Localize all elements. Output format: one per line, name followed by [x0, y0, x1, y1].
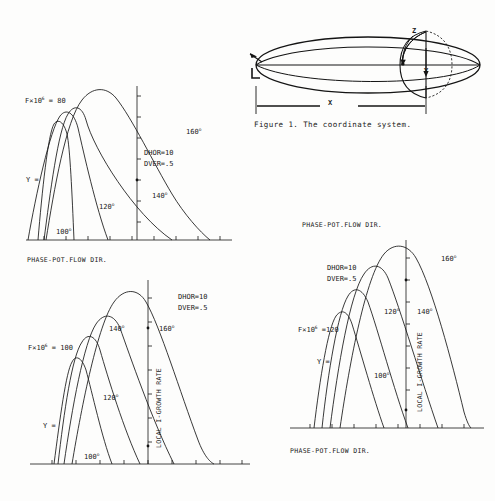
figure-page: Z Y X Figure 1. The coordinate system.: [0, 0, 495, 501]
chart-f120-curve-label-120: 120o: [384, 308, 399, 316]
chart-f80-curve-label-100: 100o: [56, 228, 71, 236]
curve-value: 100: [56, 228, 69, 236]
chart-f100-curve-label-140: 140o: [109, 325, 124, 333]
reynolds-prefix: F×10: [28, 344, 45, 352]
chart-f100-plot: [28, 268, 254, 473]
curve-value: 120: [103, 394, 116, 402]
curve-value: 120: [99, 203, 112, 211]
diagram-z-label: Z: [412, 28, 416, 35]
chart-f120-curve-label-140: 140o: [417, 308, 432, 316]
degree-icon: o: [122, 324, 125, 329]
degree-icon: o: [199, 127, 202, 132]
degree-icon: o: [387, 371, 390, 376]
degree-icon: o: [112, 202, 115, 207]
chart-f100-growth-axis-label: LOCAL I-GROWTH RATE: [156, 368, 163, 448]
chart-f120-plot: [288, 232, 488, 440]
chart-f80-x-axis-label: PHASE-POT.FLOW DIR.: [27, 257, 107, 264]
chart-f120-growth-axis-label: LOCAL I-GROWTH RATE: [417, 332, 424, 412]
curve-value: 100: [84, 453, 97, 461]
curve-value: 140: [109, 325, 122, 333]
degree-icon: o: [172, 324, 175, 329]
diagram-y-label: Y: [424, 68, 428, 75]
reynolds-exponent: 6: [315, 325, 318, 330]
chart-f80-reynolds-label: F×106 = 80: [25, 97, 66, 105]
chart-f100-dver-label: DVER=.5: [178, 305, 208, 312]
reynolds-prefix: F×10: [25, 97, 42, 105]
chart-f80-dver-label: DVER=.5: [144, 161, 174, 168]
curve-value: 100: [374, 372, 387, 380]
chart-f100-curve-label-120: 120o: [103, 394, 118, 402]
reynolds-eq: = 100: [52, 344, 73, 352]
chart-f100-curve-label-160: 160o: [159, 325, 174, 333]
reynolds-exponent: 6: [42, 96, 45, 101]
chart-f100-y-axis-label: Y =: [43, 423, 56, 430]
degree-icon: o: [165, 191, 168, 196]
curve-value: 160: [441, 255, 454, 263]
chart-f120-x-axis-label-top: PHASE-POT.FLOW DIR.: [302, 222, 382, 229]
chart-f100-curve-label-100: 100o: [84, 453, 99, 461]
chart-f120-reynolds-label: F×106 =120: [298, 326, 339, 334]
chart-f120-curve-label-160: 160o: [441, 255, 456, 263]
chart-f120-dver-label: DVER=.5: [327, 276, 357, 283]
degree-icon: o: [454, 254, 457, 259]
curve-value: 140: [152, 192, 165, 200]
degree-icon: o: [397, 307, 400, 312]
curve-value: 120: [384, 308, 397, 316]
diagram-x-label: X: [328, 100, 332, 107]
chart-f100-dhor-label: DHOR=10: [178, 294, 208, 301]
degree-icon: o: [116, 393, 119, 398]
reynolds-exponent: 6: [45, 343, 48, 348]
chart-f80-curve-label-160: 160o: [186, 128, 201, 136]
coordinate-system-diagram: [250, 18, 495, 118]
chart-f100-reynolds-label: F×106 = 100: [28, 344, 73, 352]
curve-value: 160: [159, 325, 172, 333]
reynolds-eq: = 80: [49, 97, 66, 105]
degree-icon: o: [430, 307, 433, 312]
chart-f120-dhor-label: DHOR=10: [327, 265, 357, 272]
curve-value: 140: [417, 308, 430, 316]
figure-caption: Figure 1. The coordinate system.: [254, 121, 411, 129]
reynolds-prefix: F×10: [298, 326, 315, 334]
chart-f120-curve-label-100: 100o: [374, 372, 389, 380]
chart-f80-curve-label-140: 140o: [152, 192, 167, 200]
reynolds-eq: =120: [322, 326, 339, 334]
chart-f80-dhor-label: DHOR=10: [144, 150, 174, 157]
degree-icon: o: [97, 452, 100, 457]
degree-icon: o: [69, 227, 72, 232]
chart-f80-y-axis-label: Y =: [26, 177, 39, 184]
chart-f80-curve-label-120: 120o: [99, 203, 114, 211]
chart-f120-x-axis-label: PHASE-POT.FLOW DIR.: [290, 448, 370, 455]
chart-f120-y-axis-label: Y =: [317, 359, 330, 366]
curve-value: 160: [186, 128, 199, 136]
